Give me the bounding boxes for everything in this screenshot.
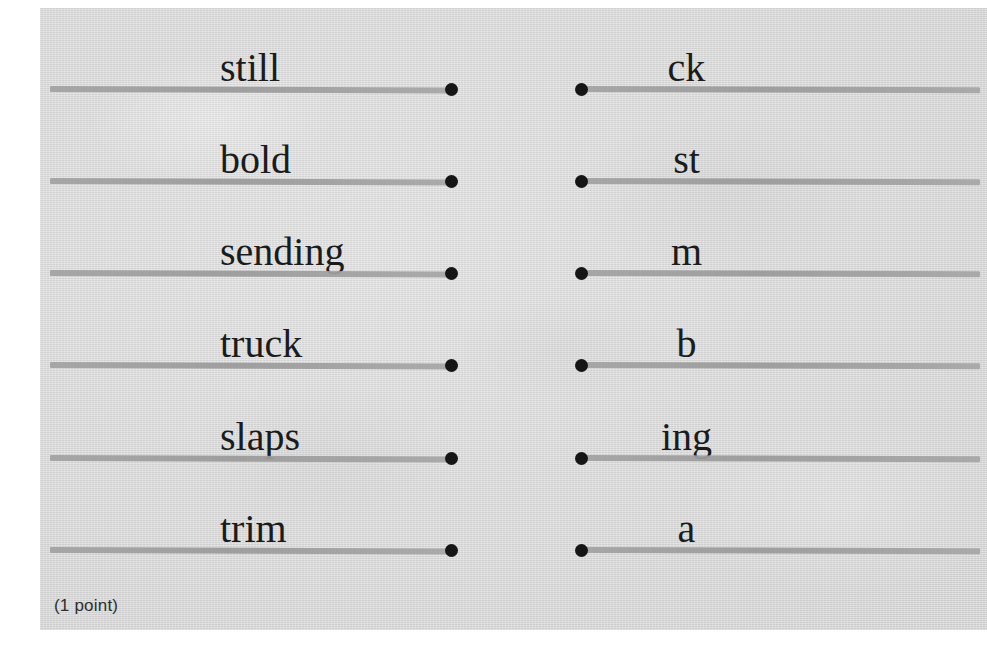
match-item-left[interactable]: truck	[50, 284, 450, 376]
answer-rule-right[interactable]	[583, 270, 980, 277]
answer-rule-left[interactable]	[50, 270, 450, 278]
points-note: (1 point)	[54, 596, 118, 616]
answer-rule-right[interactable]	[583, 86, 980, 93]
left-word-label: sending	[220, 232, 344, 272]
match-item-right[interactable]: st	[583, 100, 980, 192]
left-word-label: still	[220, 48, 280, 88]
right-word-label: ing	[583, 417, 980, 457]
connector-dot-right[interactable]	[575, 83, 588, 96]
match-row: still ck	[40, 8, 987, 100]
worksheet-page: still ck bold st sending m	[40, 8, 987, 630]
match-item-left[interactable]: slaps	[50, 377, 450, 469]
connector-dot-left[interactable]	[445, 267, 458, 280]
connector-dot-right[interactable]	[575, 359, 588, 372]
left-word-label: bold	[220, 140, 291, 180]
match-item-right[interactable]: ck	[583, 8, 980, 100]
match-row: sending m	[40, 192, 987, 284]
connector-dot-left[interactable]	[445, 359, 458, 372]
match-item-left[interactable]: still	[50, 8, 450, 100]
connector-dot-left[interactable]	[445, 83, 458, 96]
connector-dot-right[interactable]	[575, 267, 588, 280]
right-word-label: st	[583, 140, 980, 180]
answer-rule-right[interactable]	[583, 362, 980, 369]
connector-dot-right[interactable]	[575, 452, 588, 465]
match-row: slaps ing	[40, 377, 987, 469]
right-word-label: ck	[583, 48, 980, 88]
answer-rule-left[interactable]	[50, 547, 450, 555]
answer-rule-left[interactable]	[50, 86, 450, 94]
connector-dot-left[interactable]	[445, 544, 458, 557]
connector-dot-left[interactable]	[445, 175, 458, 188]
answer-rule-left[interactable]	[50, 455, 450, 463]
match-item-left[interactable]: bold	[50, 100, 450, 192]
match-item-left[interactable]: sending	[50, 192, 450, 284]
match-row: truck b	[40, 284, 987, 376]
right-word-label: b	[583, 324, 980, 364]
match-row: trim a	[40, 469, 987, 561]
answer-rule-right[interactable]	[583, 455, 980, 462]
match-item-right[interactable]: a	[583, 469, 980, 561]
answer-rule-right[interactable]	[583, 178, 980, 185]
left-word-label: trim	[220, 509, 287, 549]
connector-dot-right[interactable]	[575, 544, 588, 557]
match-item-right[interactable]: ing	[583, 377, 980, 469]
answer-rule-right[interactable]	[583, 547, 980, 554]
match-item-right[interactable]: b	[583, 284, 980, 376]
match-item-left[interactable]: trim	[50, 469, 450, 561]
answer-rule-left[interactable]	[50, 362, 450, 370]
answer-rule-left[interactable]	[50, 178, 450, 186]
right-word-label: a	[583, 509, 980, 549]
connector-dot-right[interactable]	[575, 175, 588, 188]
match-item-right[interactable]: m	[583, 192, 980, 284]
right-word-label: m	[583, 232, 980, 272]
left-word-label: slaps	[220, 417, 300, 457]
match-row: bold st	[40, 100, 987, 192]
left-word-label: truck	[220, 324, 302, 364]
connector-dot-left[interactable]	[445, 452, 458, 465]
